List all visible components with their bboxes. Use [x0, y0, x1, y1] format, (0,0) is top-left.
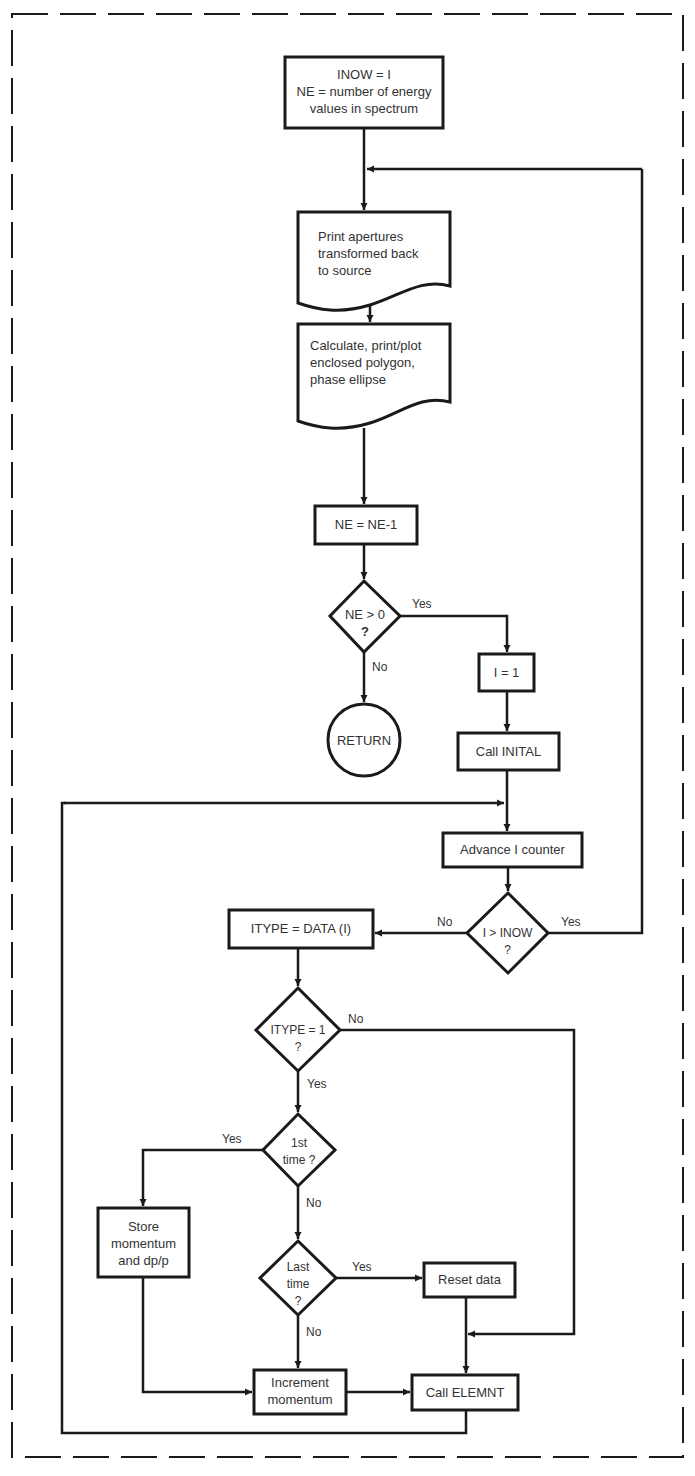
edge-label-last-yes: Yes: [352, 1260, 372, 1274]
node-line: Increment: [254, 1374, 346, 1391]
edge-label-inow-no: No: [437, 915, 452, 929]
edge-label-first-no: No: [306, 1196, 321, 1210]
node-line: ?: [330, 623, 400, 640]
edge-label-ne-yes: Yes: [412, 597, 432, 611]
node-line: I > INOW: [467, 925, 548, 942]
node-line: Store: [98, 1218, 189, 1235]
node-store: Store momentum and dp/p: [98, 1218, 189, 1269]
node-line: time: [260, 1276, 336, 1293]
node-last-time: Last time ?: [260, 1259, 336, 1310]
node-line: ITYPE = 1: [256, 1022, 340, 1039]
node-line: momentum: [98, 1235, 189, 1252]
node-line: 1st: [263, 1135, 335, 1152]
node-i-gt-inow: I > INOW ?: [467, 925, 548, 959]
node-advance: Advance I counter: [443, 841, 582, 858]
node-itype-data: ITYPE = DATA (I): [229, 920, 373, 937]
node-line: and dp/p: [98, 1252, 189, 1269]
node-itype-eq1: ITYPE = 1 ?: [256, 1022, 340, 1056]
flowchart-canvas: INOW = I NE = number of energy values in…: [0, 0, 695, 1476]
node-line: Calculate, print/plot: [310, 337, 421, 354]
node-line: ?: [467, 942, 548, 959]
edge-label-itype-yes: Yes: [307, 1077, 327, 1091]
edge-label-itype-no: No: [348, 1012, 363, 1026]
node-line: enclosed polygon,: [310, 354, 421, 371]
node-line: ?: [256, 1039, 340, 1056]
node-line: phase ellipse: [310, 371, 421, 388]
node-increment: Increment momentum: [254, 1374, 346, 1408]
node-init-line: INOW = I: [285, 66, 443, 83]
node-line: Last: [260, 1259, 336, 1276]
node-return: RETURN: [328, 732, 400, 749]
edge-label-last-no: No: [306, 1325, 321, 1339]
node-elemnt: Call ELEMNT: [412, 1384, 518, 1401]
edge-label-ne-no: No: [372, 660, 387, 674]
node-line: transformed back: [318, 245, 418, 262]
node-line: Print apertures: [318, 228, 418, 245]
node-line: to source: [318, 262, 418, 279]
node-call-inital: Call INITAL: [458, 743, 559, 760]
node-line: NE > 0: [330, 606, 400, 623]
node-i-eq1: I = 1: [479, 664, 534, 681]
node-init: INOW = I NE = number of energy values in…: [285, 66, 443, 117]
edge-label-first-yes: Yes: [222, 1132, 242, 1146]
node-init-line: values in spectrum: [285, 100, 443, 117]
node-init-line: NE = number of energy: [285, 83, 443, 100]
node-line: time ?: [263, 1152, 335, 1169]
node-print-apertures: Print apertures transformed back to sour…: [318, 228, 418, 279]
edge-label-inow-yes: Yes: [561, 915, 581, 929]
node-reset: Reset data: [424, 1271, 515, 1288]
node-ne-dec: NE = NE-1: [315, 516, 417, 533]
node-line: momentum: [254, 1391, 346, 1408]
node-first-time: 1st time ?: [263, 1135, 335, 1169]
node-ne-gt0: NE > 0 ?: [330, 606, 400, 640]
node-calculate: Calculate, print/plot enclosed polygon, …: [310, 337, 421, 388]
node-line: ?: [260, 1293, 336, 1310]
